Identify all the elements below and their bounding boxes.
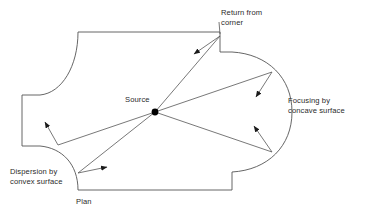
reflected-ray-convex-upper [45, 122, 58, 145]
outline-left-edge [22, 95, 40, 146]
label-return-from-corner: Return from corner [221, 8, 262, 27]
reflected-rays [45, 36, 272, 173]
label-dispersion-by-convex-surface: Dispersion by convex surface [10, 167, 62, 186]
source-point-marker [152, 109, 159, 116]
label-plan: Plan [76, 197, 92, 207]
outline-bottom-right-step [78, 172, 232, 190]
reflected-ray-upper-apse [256, 72, 272, 97]
outline-apse-curve [232, 52, 292, 172]
outline-upper-left-curve [22, 32, 78, 95]
ray-to-convex-upper [58, 112, 155, 145]
reflected-ray-lower-apse [254, 126, 272, 152]
label-source: Source [125, 95, 150, 105]
sound-rays [58, 36, 272, 173]
label-focusing-by-concave-surface: Focusing by concave surface [288, 96, 345, 115]
outline-top-right-step [220, 32, 232, 52]
ray-to-convex-lower [78, 112, 155, 173]
ray-to-lower-apse [155, 112, 272, 152]
diagram-page: Return from corner Source Focusing by co… [0, 0, 372, 221]
